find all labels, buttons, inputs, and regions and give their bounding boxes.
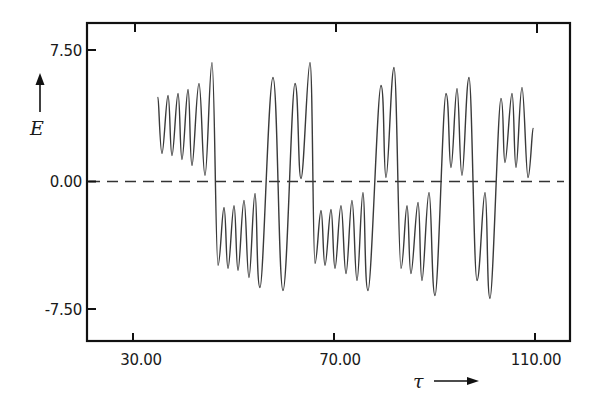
y-tick-label-minus-7.50: -7.50: [45, 301, 82, 319]
x-tick-label-70.00: 70.00: [319, 351, 360, 369]
y-axis-ticks: [87, 50, 96, 309]
y-tick-label-0.00: 0.00: [50, 173, 82, 191]
x-axis-label-group: τ: [413, 370, 479, 392]
x-tick-label-30.00: 30.00: [120, 351, 161, 369]
y-axis-label: E: [29, 117, 44, 139]
chart: 7.50 0.00 -7.50 30.00 70.00 110.00 E τ: [0, 0, 598, 406]
y-axis-label-group: E: [29, 73, 45, 139]
data-series-curve: [158, 62, 533, 298]
y-tick-label-7.50: 7.50: [50, 42, 82, 60]
right-arrow-icon: [467, 377, 479, 385]
up-arrow-icon: [36, 73, 45, 85]
x-axis-label: τ: [413, 370, 424, 392]
x-tick-label-110.00: 110.00: [511, 351, 562, 369]
